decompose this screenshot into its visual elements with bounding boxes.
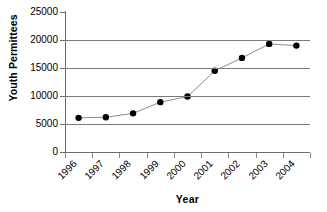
x-axis-tick-mark <box>174 153 175 158</box>
y-axis-tick-mark <box>60 124 65 125</box>
plot-area: 1996: 61001997: 62001998: 69001999: 8900… <box>65 12 310 152</box>
data-point-marker: 1999: 8900 <box>157 99 163 105</box>
data-point-marker: 2004: 19000 <box>293 42 299 48</box>
data-series-youth-permittees: 1996: 61001997: 62001998: 69001999: 8900… <box>65 12 310 152</box>
x-axis-tick-mark <box>92 153 93 158</box>
gridline <box>65 68 310 69</box>
x-axis-tick-mark <box>228 153 229 158</box>
x-axis-title: Year <box>65 193 310 205</box>
y-axis-tick-mark <box>60 12 65 13</box>
y-axis-tick-mark <box>60 68 65 69</box>
y-axis-tick-label: 15000 <box>14 63 58 73</box>
data-point-marker: 1997: 6200 <box>103 114 109 120</box>
data-point-marker: 1996: 6100 <box>75 115 81 121</box>
series-line <box>79 44 297 118</box>
line-chart: Youth Permittees 05000100001500020000250… <box>0 0 327 212</box>
x-axis-tick-mark <box>119 153 120 158</box>
y-axis-tick-mark <box>60 96 65 97</box>
x-axis-line <box>65 152 310 153</box>
x-axis-tick-mark <box>256 153 257 158</box>
gridline <box>65 124 310 125</box>
x-axis-tick-mark <box>201 153 202 158</box>
data-point-marker: 1998: 6900 <box>130 110 136 116</box>
x-axis-tick-mark <box>65 153 66 158</box>
y-axis-tick-label: 10000 <box>14 91 58 101</box>
gridline <box>65 96 310 97</box>
y-axis-tick-label: 0 <box>14 147 58 157</box>
y-axis-tick-label: 5000 <box>14 119 58 129</box>
y-axis-tick-mark <box>60 40 65 41</box>
x-axis-tick-mark <box>310 153 311 158</box>
x-axis-tick-mark <box>283 153 284 158</box>
y-axis-tick-label: 25000 <box>14 7 58 17</box>
gridline <box>65 40 310 41</box>
x-axis-tick-mark <box>147 153 148 158</box>
y-axis-tick-label: 20000 <box>14 35 58 45</box>
data-point-marker: 2003: 19300 <box>266 41 272 47</box>
data-point-marker: 2002: 16800 <box>239 55 245 61</box>
